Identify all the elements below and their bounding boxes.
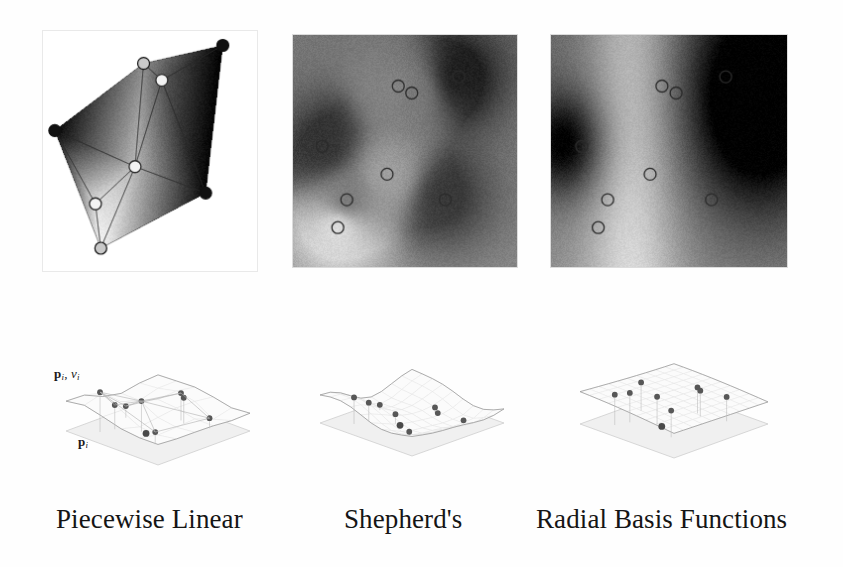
- piecewise-raster: [43, 31, 257, 271]
- caption-radial-basis-functions: Radial Basis Functions: [536, 504, 787, 535]
- caption-shepherds: Shepherd's: [344, 504, 462, 535]
- label-samples-domain: pi: [78, 434, 88, 450]
- rbf-raster: [550, 34, 788, 268]
- panel-piecewise-linear-topview: [42, 30, 258, 272]
- shepherds-raster: [292, 34, 518, 268]
- label-samples-with-values: pi, vi: [54, 366, 80, 382]
- figure-root: pi, vi pi Piecewise Linear Shepherd's Ra…: [0, 0, 843, 567]
- plot3d-rbf: [558, 318, 808, 476]
- label-p-subscript-domain: i: [85, 440, 88, 450]
- panel-shepherds-topview: [290, 30, 520, 270]
- label-separator: ,: [64, 366, 71, 381]
- label-v-subscript: i: [77, 372, 80, 382]
- plot3d-shepherds: [300, 320, 540, 475]
- caption-piecewise-linear: Piecewise Linear: [56, 504, 243, 535]
- plot3d-piecewise-linear: [40, 325, 290, 475]
- panel-rbf-topview: [548, 30, 790, 270]
